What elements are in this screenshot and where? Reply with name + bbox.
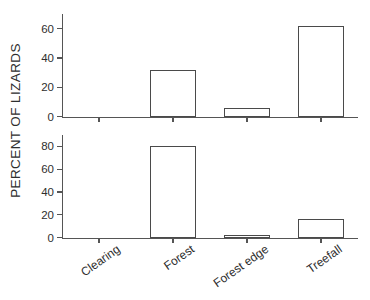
bottom-panel-ytick-label: 60 [41,163,54,175]
bar-bottom-panel-forest-edge [224,235,270,237]
x-axis-category-labels: ClearingForestForest edgeTreefall [62,240,358,300]
bottom-panel-y-axis-line [62,135,63,239]
bottom-panel-ytick-60 [57,169,62,170]
bar-bottom-panel-treefall [298,219,344,237]
top-panel-xtick-forest-edge [246,118,247,122]
bottom-panel-ytick-0 [57,237,62,238]
bar-top-panel-forest [150,70,196,117]
bar-bottom-panel-forest [150,146,196,237]
bottom-panel-ytick-label: 0 [48,232,54,244]
top-panel-ytick-0 [57,116,62,117]
y-axis-label: PERCENT OF LIZARDS [8,43,23,198]
top-panel-xtick-clearing [98,118,99,122]
bottom-panel-ytick-20 [57,214,62,215]
top-panel-ytick-label: 60 [41,23,54,35]
bottom-panel-ytick-label: 40 [41,186,54,198]
bottom-panel: 020406080 [62,135,358,239]
top-panel-ytick-60 [57,28,62,29]
x-axis-label-clearing: Clearing [78,242,123,279]
bottom-panel-x-axis-line [62,238,358,239]
top-panel-ytick-40 [57,57,62,58]
top-panel-plot-area: 0204060 [62,14,358,118]
top-panel-xtick-treefall [320,118,321,122]
bottom-panel-plot-area: 020406080 [62,135,358,239]
top-panel-y-axis-line [62,14,63,118]
bar-top-panel-treefall [298,26,344,117]
top-panel-ytick-label: 40 [41,52,54,64]
bottom-panel-ytick-80 [57,146,62,147]
x-axis-label-forest: Forest [161,242,197,273]
top-panel-ytick-20 [57,87,62,88]
top-panel-xtick-forest [172,118,173,122]
figure: PERCENT OF LIZARDS 0204060 020406080 Cle… [0,0,370,300]
y-axis-label-container: PERCENT OF LIZARDS [0,0,30,240]
bottom-panel-ytick-40 [57,191,62,192]
top-panel-ytick-label: 20 [41,81,54,93]
top-panel: 0204060 [62,14,358,118]
x-axis-label-treefall: Treefall [305,242,345,276]
bottom-panel-ytick-label: 80 [41,140,54,152]
bottom-panel-ytick-label: 20 [41,209,54,221]
bar-top-panel-forest-edge [224,108,270,117]
x-axis-label-forest-edge: Forest edge [211,242,271,290]
top-panel-ytick-label: 0 [48,111,54,123]
top-panel-x-axis-line [62,117,358,118]
